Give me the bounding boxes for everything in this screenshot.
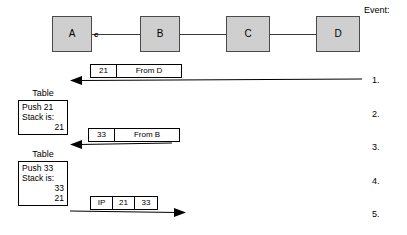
table-row: Push 33 — [22, 163, 64, 173]
packet-field: From D — [117, 65, 181, 77]
network-node-d: D — [316, 16, 360, 52]
packet-field: 33 — [89, 129, 115, 141]
network-node-label: D — [334, 29, 341, 39]
table-box: Push 21Stack is:21 — [18, 100, 68, 135]
table-box: Push 33Stack is:3321 — [18, 161, 68, 206]
network-node-a: A — [52, 16, 92, 52]
packet-field: IP — [91, 197, 113, 209]
table-row: 21 — [22, 193, 64, 203]
table-2: TablePush 33Stack is:3321 — [18, 150, 68, 206]
event-number-5: 5. — [372, 210, 380, 219]
network-node-label: B — [157, 29, 164, 39]
table-1: TablePush 21Stack is:21 — [18, 89, 68, 135]
table-row: Push 21 — [22, 102, 64, 112]
packet-field: 21 — [91, 65, 117, 77]
packet-2: 33From B — [88, 128, 180, 142]
packet-field: 33 — [135, 197, 157, 209]
packet-field: From B — [115, 129, 179, 141]
network-node-label: A — [69, 29, 76, 39]
packet-3: IP2133 — [90, 196, 158, 210]
table-row: 21 — [22, 122, 64, 132]
event-column-header: Event: — [364, 6, 390, 15]
link-c-d — [270, 34, 316, 35]
table-caption: Table — [18, 150, 68, 159]
port-label-c: c — [94, 31, 98, 39]
link-a-b — [92, 34, 140, 35]
network-node-label: C — [244, 29, 251, 39]
event-number-4: 4. — [372, 177, 380, 186]
network-node-b: B — [140, 16, 180, 52]
packet-field: 21 — [113, 197, 135, 209]
packet-1: 21From D — [90, 64, 182, 78]
table-caption: Table — [18, 89, 68, 98]
diagram-canvas: Event: ABCD c 21From D33From BIP2133 Tab… — [0, 0, 407, 235]
table-row: Stack is: — [22, 173, 64, 183]
table-row: Stack is: — [22, 112, 64, 122]
table-row: 33 — [22, 183, 64, 193]
event-number-2: 2. — [372, 110, 380, 119]
event-number-3: 3. — [372, 143, 380, 152]
link-b-c — [180, 34, 226, 35]
event-number-1: 1. — [372, 76, 380, 85]
network-node-c: C — [226, 16, 270, 52]
